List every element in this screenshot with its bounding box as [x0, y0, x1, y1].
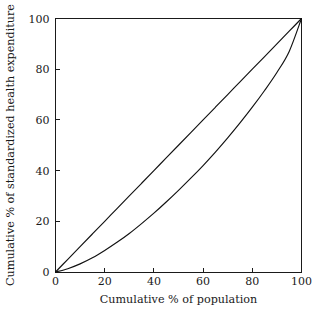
- y-tick-label: 100: [29, 13, 50, 26]
- x-axis-title: Cumulative % of population: [100, 293, 258, 306]
- y-axis-title: Cumulative % of standardized health expe…: [4, 4, 17, 286]
- chart-canvas: 020406080100 020406080100 Cumulative % o…: [0, 0, 322, 311]
- y-tick-label: 40: [36, 165, 50, 178]
- x-tick-label: 60: [196, 275, 210, 288]
- x-tick-label: 20: [98, 275, 112, 288]
- x-tick-label: 100: [291, 275, 312, 288]
- y-tick-label: 20: [36, 215, 50, 228]
- x-tick-label: 80: [245, 275, 259, 288]
- x-tick-label: 0: [52, 275, 59, 288]
- lorenz-curve-figure: 020406080100 020406080100 Cumulative % o…: [0, 0, 322, 311]
- y-tick-label: 80: [36, 63, 50, 76]
- y-tick-label: 0: [43, 266, 50, 279]
- y-tick-label: 60: [36, 114, 50, 127]
- x-tick-label: 40: [147, 275, 161, 288]
